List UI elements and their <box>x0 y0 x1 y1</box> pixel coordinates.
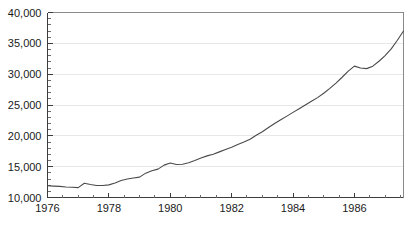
x-tick-label: 1978 <box>97 202 121 214</box>
y-tick-label: 25,000 <box>8 99 42 111</box>
y-tick-label: 35,000 <box>8 37 42 49</box>
line-chart: 10,00015,00020,00025,00030,00035,00040,0… <box>0 0 411 234</box>
y-tick-label: 15,000 <box>8 161 42 173</box>
y-tick-label: 40,000 <box>8 7 42 19</box>
y-tick-label: 30,000 <box>8 68 42 80</box>
x-tick-label: 1984 <box>281 202 305 214</box>
x-axis-ticks <box>48 193 401 198</box>
data-series-group <box>48 31 404 188</box>
x-tick-label: 1976 <box>35 202 59 214</box>
x-tick-label: 1982 <box>219 202 243 214</box>
data-line-value <box>48 31 404 188</box>
x-tick-label: 1986 <box>342 202 366 214</box>
y-axis-tick-labels: 10,00015,00020,00025,00030,00035,00040,0… <box>8 7 42 204</box>
chart-canvas: 10,00015,00020,00025,00030,00035,00040,0… <box>0 0 411 234</box>
gridline-group <box>48 43 404 166</box>
x-tick-label: 1980 <box>158 202 182 214</box>
y-axis-ticks <box>48 13 53 198</box>
y-tick-label: 20,000 <box>8 130 42 142</box>
x-axis-tick-labels: 197619781980198219841986 <box>35 202 366 214</box>
